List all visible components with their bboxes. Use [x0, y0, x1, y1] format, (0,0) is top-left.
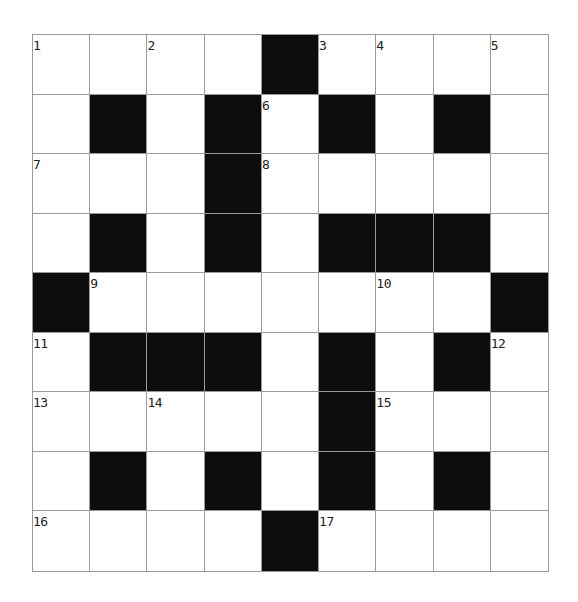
clue-number: 7 [33, 158, 40, 171]
clue-number: 12 [491, 337, 506, 350]
clue-number: 8 [262, 158, 269, 171]
grid-cell[interactable] [491, 452, 548, 512]
black-square [90, 452, 147, 512]
grid-cell[interactable] [33, 214, 90, 274]
grid-cell[interactable] [90, 35, 147, 95]
black-square [33, 273, 90, 333]
grid-cell[interactable] [90, 154, 147, 214]
grid-cell[interactable]: 17 [319, 511, 376, 571]
grid-cell[interactable] [90, 392, 147, 452]
black-square [319, 333, 376, 393]
black-square [319, 392, 376, 452]
black-square [205, 333, 262, 393]
grid-cell[interactable] [147, 95, 204, 155]
clue-number: 1 [33, 39, 40, 52]
clue-number: 9 [90, 277, 97, 290]
black-square [319, 214, 376, 274]
grid-cell[interactable]: 5 [491, 35, 548, 95]
black-square [205, 452, 262, 512]
grid-cell[interactable]: 14 [147, 392, 204, 452]
grid-cell[interactable] [434, 392, 491, 452]
grid-cell[interactable]: 16 [33, 511, 90, 571]
grid-cell[interactable] [147, 273, 204, 333]
grid-cell[interactable] [491, 214, 548, 274]
black-square [262, 511, 319, 571]
grid-cell[interactable]: 7 [33, 154, 90, 214]
grid-cell[interactable] [33, 452, 90, 512]
clue-number: 3 [319, 39, 326, 52]
grid-cell[interactable] [376, 452, 433, 512]
grid-cell[interactable]: 1 [33, 35, 90, 95]
clue-number: 16 [33, 515, 48, 528]
grid-cell[interactable] [147, 154, 204, 214]
grid-cell[interactable] [205, 35, 262, 95]
grid-cell[interactable] [262, 214, 319, 274]
grid-cell[interactable] [376, 333, 433, 393]
clue-number: 6 [262, 99, 269, 112]
grid-cell[interactable]: 12 [491, 333, 548, 393]
black-square [434, 452, 491, 512]
black-square [205, 154, 262, 214]
clue-number: 2 [147, 39, 154, 52]
black-square [90, 95, 147, 155]
black-square [205, 95, 262, 155]
grid-cell[interactable] [205, 273, 262, 333]
grid-cell[interactable] [376, 154, 433, 214]
puzzle-title [0, 0, 578, 5]
black-square [491, 273, 548, 333]
clue-number: 10 [376, 277, 391, 290]
grid-cell[interactable] [319, 154, 376, 214]
clue-number: 17 [319, 515, 334, 528]
grid-cell[interactable]: 4 [376, 35, 433, 95]
grid-cell[interactable] [262, 333, 319, 393]
black-square [434, 333, 491, 393]
grid-cell[interactable] [491, 392, 548, 452]
grid-cell[interactable] [491, 154, 548, 214]
black-square [434, 95, 491, 155]
grid-cell[interactable] [205, 511, 262, 571]
grid-cell[interactable] [147, 214, 204, 274]
grid-cell[interactable]: 2 [147, 35, 204, 95]
grid-cell[interactable]: 9 [90, 273, 147, 333]
clue-number: 14 [147, 396, 162, 409]
grid-cell[interactable]: 13 [33, 392, 90, 452]
clue-number: 11 [33, 337, 48, 350]
black-square [205, 214, 262, 274]
grid-cell[interactable]: 6 [262, 95, 319, 155]
grid-cell[interactable]: 15 [376, 392, 433, 452]
grid-cell[interactable] [90, 511, 147, 571]
grid-cell[interactable] [262, 452, 319, 512]
clue-number: 5 [491, 39, 498, 52]
grid-cell[interactable] [205, 392, 262, 452]
clue-number: 13 [33, 396, 48, 409]
black-square [319, 452, 376, 512]
black-square [319, 95, 376, 155]
crossword-grid: 1234567891011121314151617 [32, 34, 549, 572]
grid-cell[interactable]: 10 [376, 273, 433, 333]
grid-cell[interactable] [147, 511, 204, 571]
black-square [90, 333, 147, 393]
clue-number: 4 [376, 39, 383, 52]
grid-cell[interactable]: 11 [33, 333, 90, 393]
grid-cell[interactable] [434, 273, 491, 333]
grid-cell[interactable] [434, 35, 491, 95]
black-square [147, 333, 204, 393]
grid-cell[interactable]: 8 [262, 154, 319, 214]
black-square [376, 214, 433, 274]
clue-number: 15 [376, 396, 391, 409]
grid-cell[interactable] [147, 452, 204, 512]
black-square [262, 35, 319, 95]
grid-cell[interactable] [434, 154, 491, 214]
grid-cell[interactable] [33, 95, 90, 155]
grid-cell[interactable] [376, 95, 433, 155]
grid-cell[interactable] [491, 511, 548, 571]
grid-cell[interactable] [262, 273, 319, 333]
black-square [434, 214, 491, 274]
grid-cell[interactable] [434, 511, 491, 571]
black-square [90, 214, 147, 274]
grid-cell[interactable] [262, 392, 319, 452]
grid-cell[interactable]: 3 [319, 35, 376, 95]
grid-cell[interactable] [319, 273, 376, 333]
grid-cell[interactable] [376, 511, 433, 571]
grid-cell[interactable] [491, 95, 548, 155]
